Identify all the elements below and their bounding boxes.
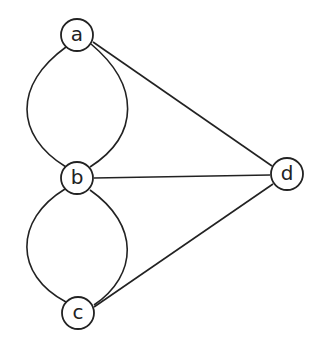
svg-text:c: c bbox=[73, 300, 84, 324]
edge-a-b-left bbox=[27, 47, 66, 167]
graph-diagram: a b c d bbox=[0, 0, 319, 343]
edge-b-c-left bbox=[27, 189, 66, 302]
svg-text:d: d bbox=[281, 161, 294, 185]
svg-text:b: b bbox=[71, 165, 84, 189]
svg-text:a: a bbox=[71, 22, 83, 46]
node-c: c bbox=[62, 297, 94, 329]
node-a: a bbox=[61, 19, 93, 51]
edge-b-d bbox=[94, 175, 270, 178]
node-d: d bbox=[271, 158, 303, 190]
node-b: b bbox=[61, 162, 93, 194]
edge-a-d bbox=[93, 42, 272, 166]
edge-c-d bbox=[94, 184, 273, 307]
